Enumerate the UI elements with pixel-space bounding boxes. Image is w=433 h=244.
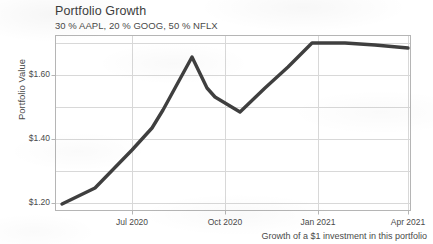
y-tick-label: $1.60 xyxy=(8,69,50,79)
plot-area xyxy=(0,0,433,244)
y-tick-label: $1.20 xyxy=(8,197,50,207)
y-tick-label: $1.40 xyxy=(8,133,50,143)
portfolio-growth-line-chart: Portfolio Growth 30 % AAPL, 20 % GOOG, 5… xyxy=(0,0,433,244)
x-tick-label: Apr 2021 xyxy=(368,217,433,227)
portfolio-value-line xyxy=(62,43,408,204)
plot-frame xyxy=(56,36,411,211)
gridlines-group xyxy=(56,36,411,211)
x-tick-label: Jul 2020 xyxy=(92,217,172,227)
x-tick-marks-group xyxy=(133,211,409,215)
x-tick-label: Jan 2021 xyxy=(278,217,358,227)
x-tick-label: Oct 2020 xyxy=(185,217,265,227)
chart-caption: Growth of a $1 investment in this portfo… xyxy=(261,231,427,241)
y-tick-marks-group xyxy=(52,76,56,204)
